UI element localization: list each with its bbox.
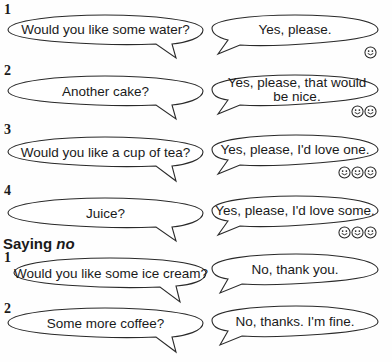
- offer-text: Would you like some water?: [8, 22, 203, 37]
- reply-text: Yes, please, I'd love one.: [212, 142, 378, 157]
- smiley-face-icon: [364, 226, 377, 239]
- dialogue-exercise-page: 1 Would you like some water? Yes, please…: [0, 0, 392, 362]
- smiley-face-icon: [338, 226, 351, 239]
- item-number: 1: [4, 251, 11, 265]
- smiley-rating: [338, 166, 377, 179]
- smiley-face-icon: [364, 46, 377, 59]
- offer-text: Some more coffee?: [8, 316, 203, 331]
- smiley-face-icon: [351, 105, 364, 118]
- offer-text: Would you like a cup of tea?: [8, 145, 203, 160]
- smiley-rating: [351, 105, 377, 118]
- offer-text: Juice?: [8, 206, 203, 221]
- smiley-face-icon: [351, 226, 364, 239]
- reply-text: No, thanks. I'm fine.: [212, 314, 378, 329]
- reply-text: Yes, please.: [212, 22, 378, 37]
- heading-prefix: Saying: [3, 235, 56, 252]
- smiley-face-icon: [351, 166, 364, 179]
- item-number: 1: [4, 3, 11, 17]
- item-number: 3: [4, 123, 11, 137]
- reply-text: Yes, please, I'd love some.: [212, 203, 378, 218]
- smiley-face-icon: [364, 166, 377, 179]
- item-number: 4: [4, 184, 11, 198]
- offer-text: Another cake?: [8, 84, 203, 99]
- item-number: 2: [4, 64, 11, 78]
- offer-text: Would you like some ice cream?: [14, 266, 206, 281]
- item-number: 2: [4, 302, 11, 316]
- smiley-face-icon: [338, 166, 351, 179]
- reply-text: Yes, please, that would be nice.: [222, 76, 372, 104]
- smiley-face-icon: [364, 105, 377, 118]
- heading-emphasis: no: [56, 235, 74, 252]
- smiley-rating: [364, 46, 377, 59]
- speech-bubbles-graphic: [0, 0, 392, 362]
- reply-text: No, thank you.: [212, 262, 378, 277]
- section-heading-saying-no: Saying no: [3, 236, 75, 252]
- smiley-rating: [338, 226, 377, 239]
